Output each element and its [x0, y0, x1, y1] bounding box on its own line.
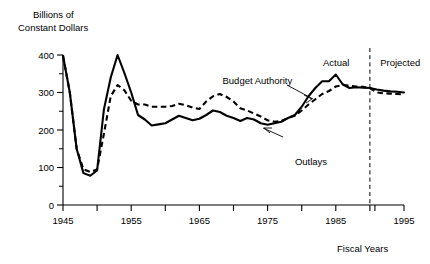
budget-authority-label: Budget Authority [223, 75, 293, 86]
y-tick-label: 0 [49, 200, 54, 211]
x-tick-label: 1975 [257, 215, 278, 226]
plot-area [63, 55, 404, 176]
y-tick-label: 300 [38, 87, 54, 98]
outlays-label: Outlays [295, 156, 327, 167]
defense-spending-chart: Billions of Constant Dollars 01002003004… [0, 0, 430, 264]
y-tick-label: 200 [38, 125, 54, 136]
x-tick-label: 1965 [189, 215, 210, 226]
chart-annotations: ActualProjectedBudget AuthorityOutlays [223, 57, 421, 167]
projected-label: Projected [380, 57, 420, 68]
y-axis-title: Billions of Constant Dollars [18, 9, 88, 33]
y-tick-label: 100 [38, 162, 54, 173]
chart-canvas: Billions of Constant Dollars 01002003004… [0, 0, 430, 264]
x-axis: 194519551965197519851995 [52, 205, 414, 226]
y-axis-title-line1: Billions of [33, 9, 74, 20]
x-tick-label: 1945 [52, 215, 73, 226]
y-tick-label: 400 [38, 50, 54, 61]
x-tick-label: 1985 [325, 215, 346, 226]
y-axis-title-line2: Constant Dollars [18, 22, 88, 33]
y-axis: 0100200300400 [38, 50, 63, 211]
x-axis-title: Fiscal Years [337, 243, 388, 254]
series-budget-authority [63, 55, 404, 176]
x-tick-label: 1955 [121, 215, 142, 226]
series-outlays [63, 56, 404, 172]
budget-authority-leader [287, 85, 313, 99]
annotation-leader-lines [263, 85, 313, 137]
x-tick-label: 1995 [393, 215, 414, 226]
actual-label: Actual [323, 57, 349, 68]
